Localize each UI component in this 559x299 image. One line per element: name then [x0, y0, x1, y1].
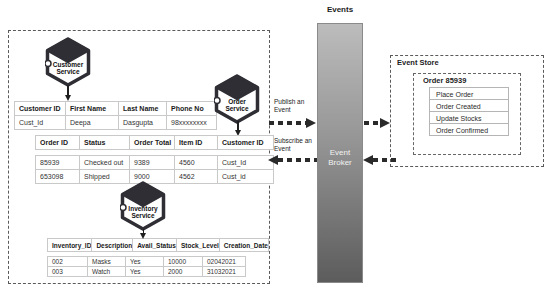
order-table: Order ID Status Order Total Item ID Cust…	[35, 135, 274, 184]
publish-arrowhead-icon	[306, 118, 316, 128]
customer-table: Customer ID First Name Last Name Phone N…	[14, 101, 217, 130]
order-service-hexagon-icon: Order Service	[214, 74, 260, 124]
order-connector-line	[237, 121, 239, 130]
event-broker: Event Broker	[317, 23, 363, 283]
order-table-header-row: Order ID Status Order Total Item ID Cust…	[36, 136, 274, 150]
architecture-diagram: Customer Service Customer ID First Name …	[0, 0, 559, 299]
publish-arrow-right	[364, 121, 381, 125]
publish-arrowhead-right-icon	[380, 118, 390, 128]
subscribe-arrowhead-right-icon	[363, 155, 373, 165]
event-store-title: Event Store	[397, 58, 439, 67]
customer-table-header-row: Customer ID First Name Last Name Phone N…	[15, 102, 217, 116]
customer-service-label: Customer Service	[45, 61, 91, 75]
order-events-box: Order 85939 Place Order Order Created Up…	[413, 73, 521, 155]
inventory-table-header-row: Inventory_ID Description Avail_Status St…	[48, 239, 269, 252]
order-table-row: 85939 Checked out 9389 4560 Cust_Id	[36, 156, 274, 170]
customer-connector-line	[67, 85, 69, 95]
order-events-title: Order 85939	[423, 76, 466, 85]
order-service-label: Order Service	[214, 98, 260, 112]
publish-event-label: Publish an Event	[274, 98, 304, 113]
inventory-service-hexagon-icon: Inventory Service	[120, 181, 166, 231]
subscribe-event-label: Subscribe an Event	[274, 137, 312, 152]
order-event-list: Place Order Order Created Update Stocks …	[429, 88, 509, 136]
subscribe-arrow-left	[278, 158, 317, 162]
inventory-table: Inventory_ID Description Avail_Status St…	[47, 238, 269, 277]
subscribe-arrowhead-icon	[268, 155, 278, 165]
publish-arrow-left	[269, 121, 307, 125]
inventory-connector-arrowhead-icon	[140, 233, 146, 239]
event-list-item: Order Confirmed	[429, 123, 509, 136]
customer-service-hexagon-icon: Customer Service	[45, 37, 91, 87]
inventory-service-label: Inventory Service	[120, 205, 166, 219]
event-broker-label: Event Broker	[318, 148, 362, 168]
inventory-table-row: 003 Watch Yes 2000 31032021	[48, 267, 246, 277]
events-title: Events	[317, 5, 363, 14]
customer-table-row: Cust_Id Deepa Dasgupta 98xxxxxxxx	[15, 116, 217, 130]
event-store-box: Event Store Order 85939 Place Order Orde…	[390, 55, 544, 167]
inventory-table-row: 002 Masks Yes 10000 02042021	[48, 257, 246, 267]
